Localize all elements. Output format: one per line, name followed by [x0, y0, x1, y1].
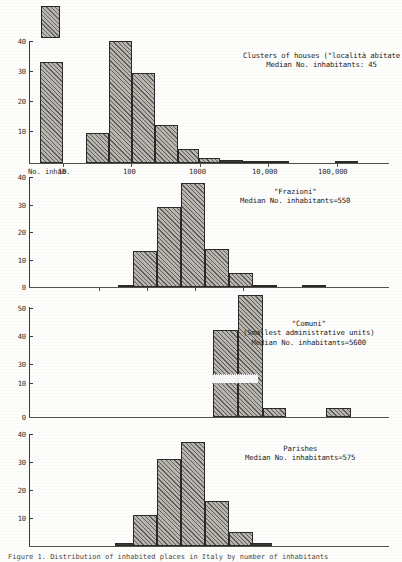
y-tick-label: 0 — [6, 283, 26, 292]
bar — [157, 459, 181, 546]
bar — [157, 207, 181, 287]
y-tick-label: 50 — [6, 304, 26, 313]
bar — [181, 442, 205, 546]
y-tick-label: 40 — [6, 37, 26, 46]
chart-panel-parishes: 40 30 20 10 Parishes Median No. inhabita… — [0, 425, 402, 562]
y-tick-label: 20 — [6, 486, 26, 495]
chart-panel-comuni: 50 40 30 10 0 "Comuni" (Smallest adminis… — [0, 295, 402, 425]
y-tick-label: 40 — [6, 173, 26, 182]
y-tick-label: 10 — [6, 256, 26, 265]
chart-panel-frazioni: 40 30 20 10 0 "Frazioni" Median No. inha… — [0, 170, 402, 295]
y-tick-label: 20 — [6, 97, 26, 106]
y-tick-label: 30 — [6, 67, 26, 76]
chart2-annotation: "Frazioni" Median No. inhabitants=550 — [240, 187, 350, 206]
scan-defect-band — [212, 374, 258, 383]
chart3-annotation: "Comuni" (Smallest administrative units)… — [243, 319, 375, 347]
y-tick-label: 40 — [6, 430, 26, 439]
bar — [40, 62, 63, 163]
x-axis-chart3 — [29, 417, 389, 418]
y-tick-label: 30 — [6, 360, 26, 369]
x-axis-chart4 — [29, 546, 389, 547]
bar — [326, 408, 351, 417]
y-tick-label: 0 — [6, 413, 26, 422]
chart2-annotation-line1: "Frazioni" — [240, 187, 350, 196]
x-tick-chart2 — [147, 287, 148, 291]
bar — [181, 183, 205, 288]
y-tick-label: 20 — [6, 228, 26, 237]
bar — [205, 249, 229, 288]
y-tick-label: 10 — [6, 514, 26, 523]
y-tick-label: 30 — [6, 458, 26, 467]
bar — [133, 251, 157, 287]
x-axis-chart2 — [29, 287, 389, 288]
chart4-annotation-line2: Median No. inhabitants=575 — [245, 453, 355, 462]
chart1-annotation-line2: Median No. inhabitants: 45 — [243, 60, 400, 69]
figure-distribution-of-inhabited-places: 40 30 20 10 No. inhab. 10 100 1000 10, — [0, 0, 402, 562]
bar — [155, 125, 178, 163]
bar — [133, 515, 157, 546]
scan-defect-edge — [212, 383, 258, 384]
chart1-annotation-line1: Clusters of houses ("località abitate — [243, 51, 400, 60]
bar — [109, 41, 132, 163]
y-tick-label: 10 — [6, 127, 26, 136]
bar — [86, 133, 109, 164]
y-tick-label: 40 — [6, 332, 26, 341]
bar — [238, 295, 263, 417]
chart2-annotation-line2: Median No. inhabitants=550 — [240, 196, 350, 205]
chart3-annotation-line1: "Comuni" — [243, 319, 375, 328]
chart3-annotation-line3: Median No. inhabitants=5600 — [243, 338, 375, 347]
x-axis-chart1 — [29, 163, 389, 164]
chart4-annotation: Parishes Median No. inhabitants=575 — [245, 444, 355, 463]
scan-defect-edge — [212, 374, 258, 375]
y-tick-label: 10 — [6, 379, 26, 388]
chart-panel-clusters-of-houses: 40 30 20 10 No. inhab. 10 100 1000 10, — [0, 0, 402, 170]
x-tick-chart2 — [243, 287, 244, 291]
chart3-annotation-line2: (Smallest administrative units) — [243, 328, 375, 337]
chart1-annotation: Clusters of houses ("località abitate Me… — [243, 51, 400, 70]
x-tick-chart2 — [195, 287, 196, 291]
bar — [229, 273, 253, 287]
chart4-annotation-line1: Parishes — [245, 444, 355, 453]
detached-bar-top-artifact — [41, 6, 60, 38]
bar — [263, 408, 286, 417]
figure-caption: Figure 1. Distribution of inhabited plac… — [8, 553, 400, 561]
bar — [132, 73, 155, 163]
y-tick-label: 30 — [6, 201, 26, 210]
bar — [178, 149, 199, 163]
x-tick-chart2 — [99, 287, 100, 291]
bar — [205, 501, 229, 546]
